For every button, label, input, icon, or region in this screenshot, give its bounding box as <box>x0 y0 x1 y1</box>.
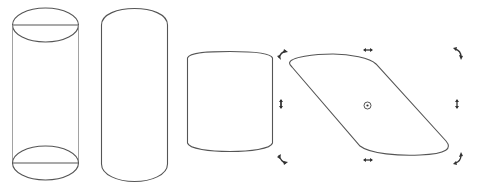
skew-handle-top[interactable] <box>363 48 373 52</box>
skewed-outline-path <box>290 54 449 155</box>
skew-handle-bottom[interactable] <box>363 158 373 162</box>
rotate-handle-bottom-right[interactable] <box>453 152 463 165</box>
rotate-handle-top-left[interactable] <box>277 49 288 60</box>
skew-handle-right[interactable] <box>455 99 459 109</box>
rotate-handle-bottom-left[interactable] <box>277 154 288 165</box>
diagram-canvas <box>0 0 477 192</box>
cylinder-scaled[interactable] <box>188 52 273 152</box>
cylinder-wireframe[interactable] <box>13 8 79 180</box>
rotation-center-handle[interactable] <box>364 102 371 109</box>
outline-path <box>102 9 168 182</box>
rotate-handle-top-right[interactable] <box>453 47 463 60</box>
scaled-outline-path <box>188 52 273 152</box>
cylinder-skewed[interactable] <box>290 54 449 155</box>
cylinder-outline[interactable] <box>102 9 168 182</box>
